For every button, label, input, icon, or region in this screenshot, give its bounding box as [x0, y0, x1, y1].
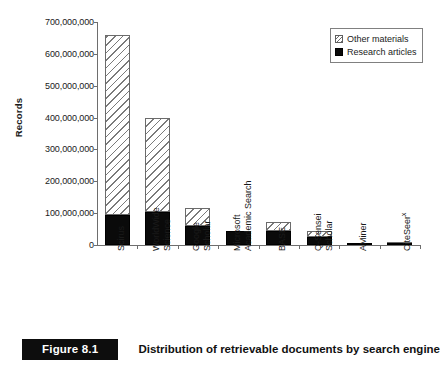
y-tick-mark: [94, 54, 98, 55]
figure-number-badge: Figure 8.1: [22, 339, 118, 360]
legend-item-other-materials: Other materials: [335, 33, 417, 45]
table-row: [105, 22, 130, 245]
x-axis-label: CiteSeerx: [399, 213, 413, 251]
y-tick-mark: [94, 118, 98, 119]
y-tick-mark: [94, 22, 98, 23]
x-axis-label: BASE: [277, 227, 288, 251]
table-row: [185, 22, 210, 245]
y-tick-label: 500,000,000: [45, 81, 94, 91]
hatched-swatch-icon: [335, 35, 343, 43]
y-axis-ticks: 0100,000,000200,000,000300,000,000400,00…: [0, 0, 94, 330]
legend-label: Research articles: [347, 47, 417, 57]
y-tick-mark: [94, 181, 98, 182]
y-tick-mark: [94, 86, 98, 87]
legend-label: Other materials: [347, 34, 409, 44]
x-tick-mark: [339, 245, 340, 249]
x-tick-mark: [218, 245, 219, 249]
x-tick-mark: [178, 245, 179, 249]
x-axis-label: AMiner: [358, 222, 369, 251]
chart-plot-area: Records 0100,000,000200,000,000300,000,0…: [0, 0, 440, 330]
y-tick-mark: [94, 213, 98, 214]
bar-segment-other-materials: [145, 118, 170, 212]
figure-caption-text: Distribution of retrievable documents by…: [138, 343, 440, 355]
bar-segment-other-materials: [105, 35, 130, 215]
x-tick-mark: [259, 245, 260, 249]
y-tick-label: 100,000,000: [45, 208, 94, 218]
y-tick-label: 600,000,000: [45, 49, 94, 59]
x-axis-label: Scirus: [116, 226, 127, 251]
y-tick-label: 700,000,000: [45, 17, 94, 27]
figure-caption: Figure 8.1 Distribution of retrievable d…: [0, 336, 440, 362]
legend-item-research-articles: Research articles: [335, 46, 417, 58]
table-row: [307, 22, 332, 245]
y-tick-label: 300,000,000: [45, 144, 94, 154]
x-tick-mark: [137, 245, 138, 249]
y-tick-mark: [94, 245, 98, 246]
y-tick-mark: [94, 149, 98, 150]
table-row: [266, 22, 291, 245]
figure-container: Records 0100,000,000200,000,000300,000,0…: [0, 0, 440, 375]
x-axis-label: GoogleScholar: [191, 220, 212, 251]
chart-legend: Other materials Research articles: [330, 28, 423, 63]
solid-swatch-icon: [335, 48, 343, 56]
x-axis-label: MicrosoftAcademic Search: [232, 180, 253, 251]
x-axis-label: Q-SenseiScholar: [313, 213, 334, 251]
x-axis-label: WorldWideScience: [151, 207, 172, 251]
x-tick-mark: [420, 245, 421, 249]
x-tick-mark: [299, 245, 300, 249]
y-tick-label: 400,000,000: [45, 113, 94, 123]
y-tick-label: 200,000,000: [45, 176, 94, 186]
x-tick-mark: [380, 245, 381, 249]
